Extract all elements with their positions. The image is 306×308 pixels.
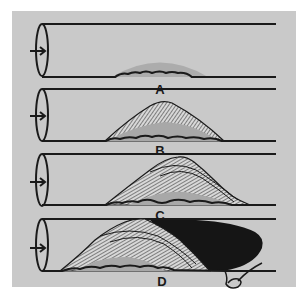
stage-c-vessel: C <box>30 154 276 223</box>
arrow-right-icon <box>30 112 45 120</box>
stage-d-label: D <box>157 274 166 289</box>
stage-d-vessel: D <box>30 219 276 289</box>
arrow-right-icon <box>30 244 45 252</box>
artery-diagram: A B C <box>0 0 306 308</box>
stage-b-label: B <box>155 143 164 158</box>
stage-b-vessel: B <box>30 89 276 158</box>
arrow-right-icon <box>30 178 45 186</box>
stage-a-vessel: A <box>30 24 276 97</box>
arrow-right-icon <box>30 47 45 55</box>
fatty-streak <box>112 63 208 78</box>
